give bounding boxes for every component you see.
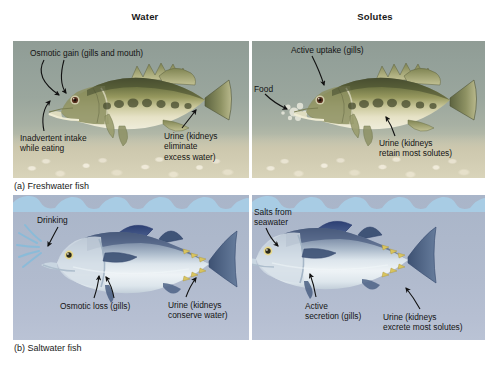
label-active-uptake: Active uptake (gills) [291,45,364,55]
caption-freshwater-fish: (a) Freshwater fish [14,181,89,191]
label-drinking: Drinking [37,215,68,225]
label-food: Food [254,84,273,94]
osmoregulation-figure: Water Solutes [0,0,500,367]
label-inadvertent-intake: Inadvertent intake while eating [20,133,87,154]
label-osmotic-loss: Osmotic loss (gills) [60,301,130,311]
label-urine-saltwater-water: Urine (kidneys conserve water) [168,300,228,321]
label-active-secretion: Active secretion (gills) [305,301,361,322]
label-salts-from-seawater: Salts from seawater [254,207,292,228]
label-urine-saltwater-solutes: Urine (kidneys excrete most solutes) [383,312,463,333]
label-urine-freshwater-solutes: Urine (kidneys retain most solutes) [379,138,452,159]
label-urine-freshwater-water: Urine (kidneys eliminate excess water) [164,131,218,162]
caption-saltwater-fish: (b) Saltwater fish [14,343,82,353]
label-osmotic-gain: Osmotic gain (gills and mouth) [30,48,143,58]
column-header-solutes: Solutes [335,11,415,22]
column-header-water: Water [105,11,185,22]
